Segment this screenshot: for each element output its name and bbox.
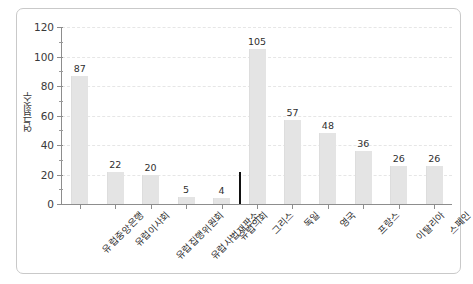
y-axis-minor-tick (59, 71, 63, 72)
y-axis-minor-tick (59, 189, 63, 190)
y-axis-minor-tick (59, 130, 63, 131)
bar-value-label: 26 (384, 154, 414, 164)
y-axis-tick (57, 175, 63, 176)
x-axis-tick (151, 204, 152, 209)
bar (107, 172, 124, 204)
bar-value-label: 57 (277, 108, 307, 118)
y-axis-tick (57, 27, 63, 28)
gridline (62, 27, 452, 28)
bar (178, 197, 195, 204)
y-axis-tick (57, 145, 63, 146)
bar (284, 120, 301, 204)
x-axis-tick (115, 204, 116, 209)
bar-value-label: 87 (65, 64, 95, 74)
y-axis-tick (57, 116, 63, 117)
x-axis-tick (434, 204, 435, 209)
y-axis-tick-label: 60 (20, 111, 54, 122)
x-axis-tick (363, 204, 364, 209)
x-axis-tick (292, 204, 293, 209)
group-divider (239, 172, 241, 204)
x-axis-tick (328, 204, 329, 209)
x-axis-tick (80, 204, 81, 209)
x-axis-tick (399, 204, 400, 209)
bar (142, 175, 159, 205)
bar-value-label: 26 (419, 154, 449, 164)
y-axis-tick-label: 40 (20, 140, 54, 151)
bar (71, 76, 88, 204)
bar (390, 166, 407, 204)
bar-value-label: 22 (100, 160, 130, 170)
y-axis-minor-tick (59, 101, 63, 102)
x-axis-tick (186, 204, 187, 209)
y-axis-minor-tick (59, 160, 63, 161)
x-axis-tick (257, 204, 258, 209)
bar (249, 49, 266, 204)
y-axis-tick (57, 86, 63, 87)
bar-value-label: 5 (171, 185, 201, 195)
y-axis-tick-label: 120 (20, 22, 54, 33)
bar (426, 166, 443, 204)
plot-area: 872220541055748362626 (62, 27, 452, 204)
y-axis-tick-label: 0 (20, 199, 54, 210)
y-axis-tick-label: 20 (20, 170, 54, 181)
bar-value-label: 4 (207, 186, 237, 196)
y-axis-minor-tick (59, 42, 63, 43)
y-axis-tick-label: 80 (20, 81, 54, 92)
bar-value-label: 105 (242, 37, 272, 47)
bar-value-label: 36 (348, 139, 378, 149)
bar (355, 151, 372, 204)
bar (319, 133, 336, 204)
bar-value-label: 48 (313, 121, 343, 131)
y-axis-tick (57, 57, 63, 58)
bar-value-label: 20 (136, 163, 166, 173)
x-axis-tick (222, 204, 223, 209)
y-axis-tick (57, 204, 63, 205)
y-axis-tick-label: 100 (20, 52, 54, 63)
